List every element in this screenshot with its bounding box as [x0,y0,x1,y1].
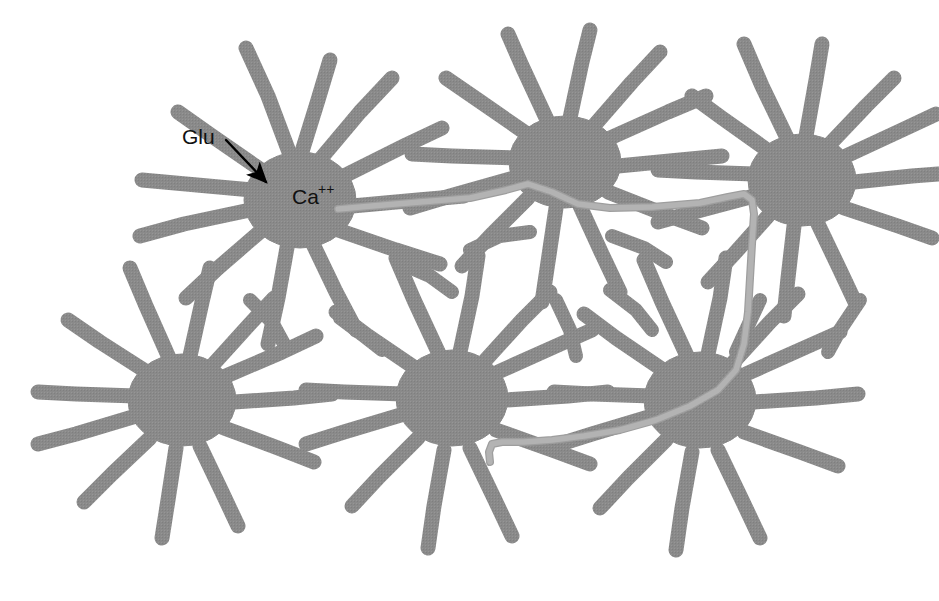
glu-label: Glu [182,125,215,148]
astrocyte-network-figure: Glu Ca ++ [0,0,939,601]
figure-canvas: Glu Ca ++ [0,0,939,601]
ca-label: Ca [292,185,319,208]
ca-superscript-label: ++ [318,181,334,197]
